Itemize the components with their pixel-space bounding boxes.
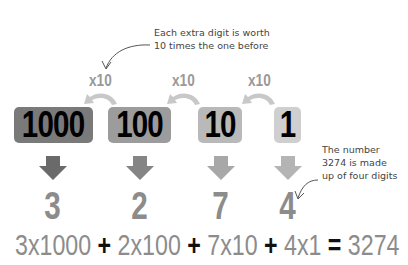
equation-plus-2: + [187, 229, 201, 261]
pointer-arrow-side-icon [0, 0, 408, 265]
digit-hundreds: 2 [120, 187, 160, 225]
digit-thousands: 3 [33, 187, 73, 225]
equation-plus-1: + [98, 229, 112, 261]
equation-result: 3274 [348, 229, 400, 261]
digit-tens: 7 [201, 187, 241, 225]
equation-term-2: 2x100 [118, 229, 181, 261]
equation-term-4: 4x1 [284, 229, 321, 261]
equation-equals: = [328, 229, 342, 261]
equation-plus-3: + [264, 229, 278, 261]
equation-term-3: 7x10 [207, 229, 257, 261]
expanded-equation: 3x1000 + 2x100 + 7x10 + 4x1 = 3274 [15, 229, 408, 261]
digit-ones: 4 [268, 187, 308, 225]
equation-term-1: 3x1000 [15, 229, 91, 261]
